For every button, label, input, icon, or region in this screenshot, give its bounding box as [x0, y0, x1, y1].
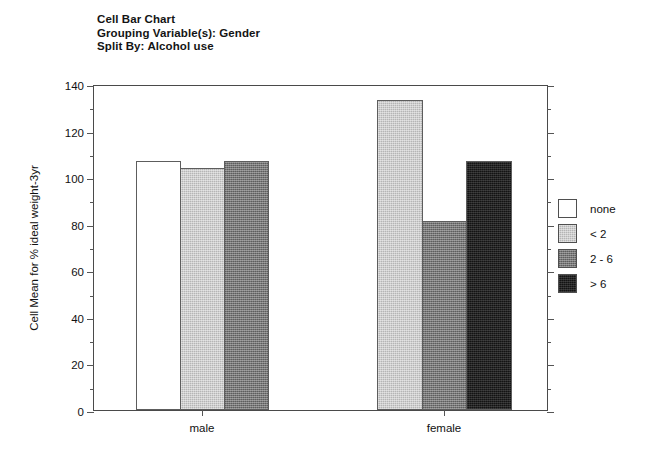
- chart-title-block: Cell Bar Chart Grouping Variable(s): Gen…: [97, 13, 260, 54]
- y-axis-major-tick: [87, 133, 94, 134]
- y-axis-tick-label: 120: [65, 127, 84, 139]
- legend-item: 2 - 6: [558, 246, 616, 271]
- chart-title: Cell Bar Chart: [97, 13, 260, 27]
- legend-item: none: [558, 196, 616, 221]
- legend-item: > 6: [558, 271, 616, 296]
- y-axis-major-tick: [547, 133, 554, 134]
- x-axis-tick-label: male: [190, 422, 215, 434]
- y-axis-major-tick: [547, 226, 554, 227]
- y-axis-tick-label: 0: [78, 406, 84, 418]
- y-axis-minor-tick: [547, 296, 551, 297]
- bar-male-none: [136, 161, 181, 410]
- y-axis-major-tick: [547, 272, 554, 273]
- y-axis-tick-label: 100: [65, 173, 84, 185]
- y-axis-minor-tick: [547, 156, 551, 157]
- y-axis-tick-label: 60: [71, 266, 84, 278]
- x-axis-tick-label: female: [427, 422, 462, 434]
- y-axis-minor-tick: [547, 342, 551, 343]
- y-axis-minor-tick: [90, 389, 94, 390]
- x-axis-tick: [202, 410, 203, 416]
- legend-item: < 2: [558, 221, 616, 246]
- plot-inner: 020406080100120140 malefemale: [94, 86, 547, 410]
- legend-swatch-<2: [558, 224, 577, 243]
- y-axis-minor-tick: [547, 202, 551, 203]
- y-axis-minor-tick: [90, 296, 94, 297]
- legend-label: none: [590, 203, 616, 215]
- y-axis-major-tick: [547, 86, 554, 87]
- y-axis-tick-label: 140: [65, 80, 84, 92]
- y-axis-major-tick: [87, 412, 94, 413]
- y-axis-major-tick: [87, 272, 94, 273]
- y-axis-minor-tick: [90, 342, 94, 343]
- x-axis-tick: [444, 410, 445, 416]
- bar-male-<2: [180, 168, 225, 410]
- y-axis-minor-tick: [90, 156, 94, 157]
- y-axis-minor-tick: [547, 249, 551, 250]
- y-axis-minor-tick: [90, 202, 94, 203]
- y-axis-minor-tick: [90, 109, 94, 110]
- y-axis-major-tick: [87, 226, 94, 227]
- y-axis-major-tick: [547, 412, 554, 413]
- legend: none< 22 - 6> 6: [558, 196, 616, 296]
- y-axis-major-tick: [87, 365, 94, 366]
- y-axis-title: Cell Mean for % ideal weight-3yr: [26, 85, 42, 411]
- y-axis-tick-label: 40: [71, 313, 84, 325]
- grouping-variable-line: Grouping Variable(s): Gender: [97, 27, 260, 41]
- y-axis-minor-tick: [547, 389, 551, 390]
- split-by-line: Split By: Alcohol use: [97, 40, 260, 54]
- y-axis-major-tick: [547, 319, 554, 320]
- bar-male-2-6: [224, 161, 269, 410]
- legend-label: 2 - 6: [590, 253, 613, 265]
- bar-female->6: [466, 161, 512, 410]
- legend-label: > 6: [590, 278, 606, 290]
- legend-swatch-none: [558, 199, 577, 218]
- y-axis-major-tick: [547, 179, 554, 180]
- y-axis-minor-tick: [90, 249, 94, 250]
- y-axis-major-tick: [87, 179, 94, 180]
- legend-label: < 2: [590, 228, 606, 240]
- bar-female-<2: [377, 100, 423, 410]
- bar-female-2-6: [422, 221, 468, 410]
- legend-swatch-2-6: [558, 249, 577, 268]
- y-axis-major-tick: [87, 86, 94, 87]
- y-axis-major-tick: [87, 319, 94, 320]
- y-axis-tick-label: 80: [71, 220, 84, 232]
- y-axis-minor-tick: [547, 109, 551, 110]
- legend-swatch->6: [558, 274, 577, 293]
- plot-area: 020406080100120140 malefemale: [93, 85, 548, 411]
- y-axis-tick-label: 20: [71, 359, 84, 371]
- y-axis-major-tick: [547, 365, 554, 366]
